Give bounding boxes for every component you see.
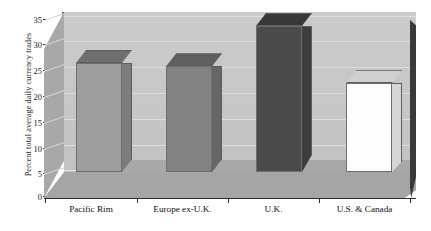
x-axis-line <box>44 198 416 199</box>
bar-uk[interactable] <box>256 16 302 172</box>
x-label-us-and-canada: U.S. & Canada <box>319 204 410 214</box>
gridline-35 <box>64 16 416 17</box>
y-tick-label: 35 <box>34 15 43 25</box>
y-tick-label: 20 <box>34 92 43 102</box>
y-axis-tick-10: 10 <box>24 145 42 154</box>
plot-area <box>44 12 416 198</box>
y-tick-label: 0 <box>38 192 42 202</box>
x-axis-tick-0 <box>45 198 46 203</box>
bar-side-face <box>212 66 222 172</box>
y-tick-label: 10 <box>34 144 43 154</box>
y-tick-label: 30 <box>34 40 43 50</box>
y-axis-tick-0: 0 <box>24 193 42 202</box>
y-tick-label: 25 <box>34 66 43 76</box>
y-tick-label: 5 <box>38 169 42 179</box>
chart-figure: Percent total average daily currency tra… <box>0 0 431 231</box>
bar-pacific-rim[interactable] <box>76 53 122 172</box>
plot-right-edge <box>410 20 416 198</box>
bar-side-face <box>122 63 132 172</box>
y-tick-label: 15 <box>34 118 43 128</box>
bar-europe-ex-uk[interactable] <box>166 56 212 172</box>
x-axis-tick-4 <box>410 198 411 203</box>
bar-side-face <box>302 26 312 172</box>
bar-us-and-canada[interactable] <box>346 73 392 172</box>
y-axis-tick-5: 5 <box>24 170 42 179</box>
y-axis-tick-group: 35 30 25 20 15 10 5 0 <box>20 0 42 231</box>
y-axis-tick-20: 20 <box>24 93 42 102</box>
bar-front-face <box>346 83 392 172</box>
x-axis-tick-2 <box>228 198 229 203</box>
x-label-europe-ex-uk: Europe ex-U.K. <box>137 204 228 214</box>
y-axis-tick-15: 15 <box>24 119 42 128</box>
gridline-30 <box>64 41 416 42</box>
bar-side-face <box>392 83 402 172</box>
bar-front-face <box>256 26 302 172</box>
bar-front-face <box>76 63 122 172</box>
x-label-pacific-rim: Pacific Rim <box>45 204 137 214</box>
y-axis-tick-30: 30 <box>24 41 42 50</box>
x-label-uk: U.K. <box>228 204 319 214</box>
y-axis-tick-25: 25 <box>24 67 42 76</box>
x-axis-tick-3 <box>319 198 320 203</box>
plot-floor-front <box>44 172 416 198</box>
y-axis-tick-35: 35 <box>24 16 42 25</box>
x-axis-tick-1 <box>137 198 138 203</box>
bar-front-face <box>166 66 212 172</box>
